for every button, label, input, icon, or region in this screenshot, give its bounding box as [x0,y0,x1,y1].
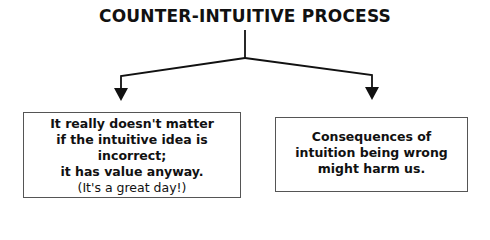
left-box-line-4: (It's a great day!) [78,180,187,196]
left-outcome-box: It really doesn't matter if the intuitiv… [23,112,241,198]
left-box-line-2: if the intuitive idea is incorrect; [24,132,240,164]
right-box-line-3: might harm us. [318,161,425,177]
left-box-line-3: it has value anyway. [60,164,203,180]
right-arrowhead-icon [365,87,379,100]
left-branch-line [121,58,245,89]
right-outcome-box: Consequences of intuition being wrong mi… [275,117,468,192]
left-arrowhead-icon [114,88,128,101]
right-box-line-1: Consequences of [312,129,432,145]
right-branch-line [245,58,372,88]
left-box-line-1: It really doesn't matter [50,116,214,132]
right-box-line-2: intuition being wrong [295,145,448,161]
